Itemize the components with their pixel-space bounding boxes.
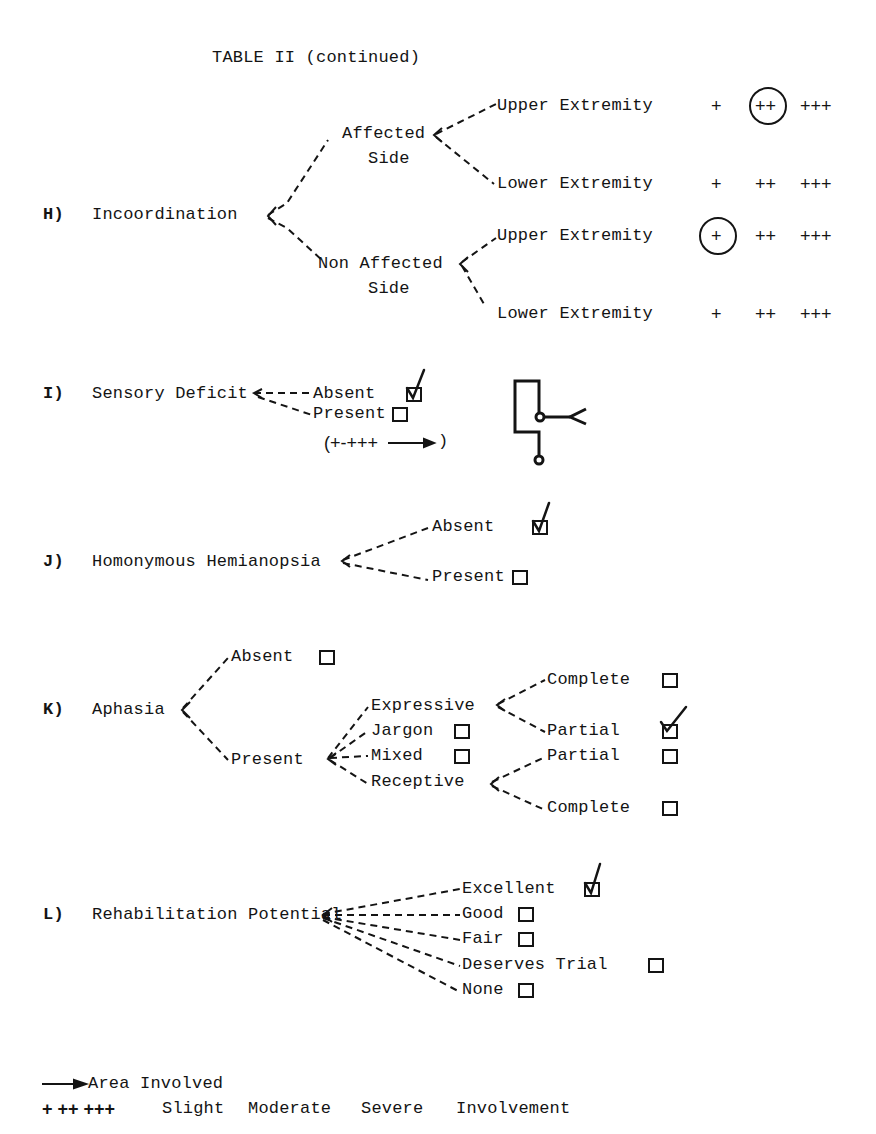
severity-moderate[interactable]: ++ [755, 226, 776, 246]
receptive-complete-label: Complete [547, 798, 630, 818]
expressive-label: Expressive [371, 696, 475, 716]
affected-lower-extremity-label: Lower Extremity [497, 174, 653, 194]
jargon-label: Jargon [371, 721, 433, 741]
sensory-deficit-label: Sensory Deficit [92, 384, 248, 404]
hemianopsia-absent-label: Absent [432, 517, 494, 537]
severity-severe[interactable]: +++ [800, 174, 832, 194]
mixed-label: Mixed [371, 746, 423, 766]
legend-slight: Slight [162, 1099, 224, 1119]
receptive-complete-checkbox[interactable] [662, 801, 678, 816]
non-affected-side-label: Non Affected [318, 254, 443, 274]
legend-scale-symbols: + ++ +++ [42, 1099, 115, 1119]
jargon-checkbox[interactable] [454, 724, 470, 739]
legend-moderate: Moderate [248, 1099, 331, 1119]
hemianopsia-present-label: Present [432, 567, 505, 587]
rehab-good-checkbox[interactable] [518, 907, 534, 922]
mixed-checkbox[interactable] [454, 749, 470, 764]
incoordination-label: Incoordination [92, 205, 238, 225]
aphasia-present-label: Present [231, 750, 304, 770]
severity-moderate-selected[interactable]: ++ [755, 96, 776, 116]
receptive-partial-checkbox[interactable] [662, 749, 678, 764]
expressive-partial-label: Partial [547, 721, 620, 741]
sensory-range-close: ) [438, 432, 448, 452]
section-letter-l: L) [43, 905, 64, 925]
sensory-absent-checkbox[interactable] [406, 387, 422, 402]
aphasia-absent-label: Absent [231, 647, 293, 667]
rehab-fair-checkbox[interactable] [518, 932, 534, 947]
receptive-partial-label: Partial [547, 746, 620, 766]
rehab-deserves-trial-label: Deserves Trial [462, 955, 608, 975]
rehab-fair-label: Fair [462, 929, 504, 949]
rehab-none-checkbox[interactable] [518, 983, 534, 998]
rehab-good-label: Good [462, 904, 504, 924]
hemianopsia-absent-checkbox[interactable] [532, 520, 548, 535]
severity-severe[interactable]: +++ [800, 226, 832, 246]
legend-arrow-label: Area Involved [88, 1074, 223, 1094]
non-affected-upper-extremity-label: Upper Extremity [497, 226, 653, 246]
severity-slight[interactable]: + [711, 304, 722, 324]
sensory-present-label: Present [313, 404, 386, 424]
section-letter-j: J) [43, 552, 64, 572]
severity-slight-selected[interactable]: + [711, 226, 722, 246]
severity-slight[interactable]: + [711, 174, 722, 194]
affected-side-label-line2: Side [368, 149, 410, 169]
rehab-none-label: None [462, 980, 504, 1000]
severity-moderate[interactable]: ++ [755, 304, 776, 324]
severity-severe[interactable]: +++ [800, 96, 832, 116]
lesion-diagram [515, 381, 586, 464]
rehabilitation-potential-label: Rehabilitation Potential [92, 905, 342, 925]
affected-side-label: Affected [342, 124, 425, 144]
expressive-complete-label: Complete [547, 670, 630, 690]
legend-severe: Severe [361, 1099, 423, 1119]
receptive-label: Receptive [371, 772, 465, 792]
non-affected-side-label-line2: Side [368, 279, 410, 299]
legend-involvement: Involvement [456, 1099, 570, 1119]
non-affected-lower-extremity-label: Lower Extremity [497, 304, 653, 324]
affected-upper-extremity-label: Upper Extremity [497, 96, 653, 116]
rehab-deserves-trial-checkbox[interactable] [648, 958, 664, 973]
section-letter-h: H) [43, 205, 64, 225]
rehab-excellent-checkbox[interactable] [584, 882, 600, 897]
section-letter-k: K) [43, 700, 64, 720]
expressive-complete-checkbox[interactable] [662, 673, 678, 688]
aphasia-label: Aphasia [92, 700, 165, 720]
sensory-present-checkbox[interactable] [392, 407, 408, 422]
section-letter-i: I) [43, 384, 64, 404]
table-title: TABLE II (continued) [212, 48, 420, 68]
sensory-absent-label: Absent [313, 384, 375, 404]
severity-severe[interactable]: +++ [800, 304, 832, 324]
hemianopsia-present-checkbox[interactable] [512, 570, 528, 585]
hemianopsia-label: Homonymous Hemianopsia [92, 552, 321, 572]
sensory-range-note: (+-+++ [324, 433, 378, 453]
severity-slight[interactable]: + [711, 96, 722, 116]
rehab-excellent-label: Excellent [462, 879, 556, 899]
severity-moderate[interactable]: ++ [755, 174, 776, 194]
expressive-partial-checkbox[interactable] [662, 724, 678, 739]
aphasia-absent-checkbox[interactable] [319, 650, 335, 665]
